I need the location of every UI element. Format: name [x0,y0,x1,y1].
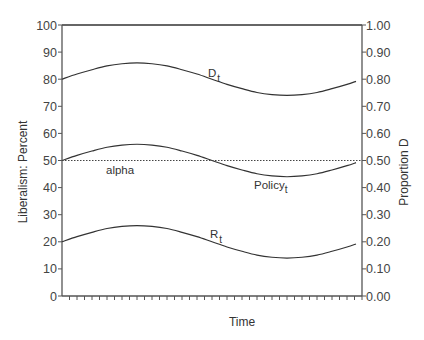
y2-tick-label: 0.80 [366,73,390,87]
y-tick-label: 100 [36,19,57,33]
y2-tick-label: 0.60 [366,127,390,141]
right-y-axis: 0.000.100.200.300.400.500.600.700.800.90… [362,19,390,304]
y-tick-label: 10 [43,262,57,276]
y2-tick-label: 0.10 [366,262,390,276]
y2-tick-label: 0.30 [366,208,390,222]
y2-tick-label: 0.50 [366,154,390,168]
y-axis-title: Liberalism: Percent [16,120,30,223]
y-tick-label: 40 [43,181,57,195]
y2-tick-label: 0.20 [366,235,390,249]
y-tick-label: 0 [50,290,57,304]
y-tick-label: 70 [43,100,57,114]
y2-axis-title: Proportion D [397,138,411,206]
alpha-label: alpha [106,164,135,176]
y-tick-label: 50 [43,154,57,168]
r-series-label: Rt [210,228,222,245]
y2-tick-label: 0.70 [366,100,390,114]
d-series-label: Dt [208,67,220,84]
y2-tick-label: 0.90 [366,46,390,60]
y2-tick-label: 0.40 [366,181,390,195]
y-tick-label: 20 [43,235,57,249]
x-axis-title: Time [229,315,256,329]
left-y-axis: 0102030405060708090100 [36,19,62,304]
policy-series-label: Policyt [254,179,288,195]
y-tick-label: 30 [43,208,57,222]
y2-tick-label: 0.00 [366,290,390,304]
y-tick-label: 90 [43,46,57,60]
y-tick-label: 80 [43,73,57,87]
y2-tick-label: 1.00 [366,19,390,33]
y-tick-label: 60 [43,127,57,141]
chart: 0102030405060708090100 0.000.100.200.300… [0,0,424,340]
series-line-R_t [62,226,356,259]
